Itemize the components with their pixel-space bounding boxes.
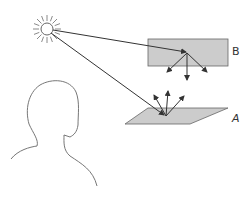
label-surface-a: A (232, 112, 240, 125)
head-silhouette (11, 81, 97, 186)
surface-b (148, 39, 228, 66)
label-surface-b: B (232, 45, 240, 58)
sun-icon (33, 15, 61, 43)
diagram-canvas (0, 0, 249, 198)
surface-a (125, 108, 228, 124)
